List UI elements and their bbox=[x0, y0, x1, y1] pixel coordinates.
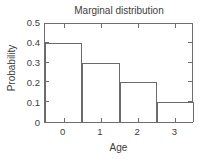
x-tick-label-0: 0 bbox=[48, 126, 78, 137]
bar-age-1 bbox=[82, 63, 119, 122]
y-tick-label-3: 0.3 bbox=[0, 58, 40, 68]
x-tick-label-2: 2 bbox=[122, 126, 152, 137]
y-tick-label-2: 0.2 bbox=[0, 78, 40, 88]
y-tick-mark-right-0.1 bbox=[188, 101, 192, 102]
y-axis-tick-labels: 0 0.1 0.2 0.3 0.4 0.5 bbox=[0, 23, 40, 123]
y-tick-mark-right-0.4 bbox=[188, 42, 192, 43]
y-tick-label-0: 0 bbox=[0, 118, 40, 128]
x-tick-mark-bottom-3 bbox=[175, 118, 176, 122]
x-tick-label-3: 3 bbox=[159, 126, 189, 137]
y-tick-mark-left-0.4 bbox=[45, 42, 49, 43]
bar-age-2 bbox=[120, 82, 157, 122]
y-tick-mark-right-0.3 bbox=[188, 62, 192, 63]
x-tick-mark-bottom-0 bbox=[64, 118, 65, 122]
y-tick-label-1: 0.1 bbox=[0, 98, 40, 108]
y-tick-mark-left-0.1 bbox=[45, 101, 49, 102]
x-tick-mark-top-3 bbox=[175, 24, 176, 28]
y-tick-mark-right-0.2 bbox=[188, 81, 192, 82]
x-tick-label-1: 1 bbox=[85, 126, 115, 137]
chart-title: Marginal distribution bbox=[44, 5, 194, 17]
x-tick-mark-top-2 bbox=[138, 24, 139, 28]
y-tick-mark-left-0.2 bbox=[45, 81, 49, 82]
x-tick-mark-top-0 bbox=[64, 24, 65, 28]
x-tick-mark-bottom-2 bbox=[138, 118, 139, 122]
chart-figure: Marginal distribution Probability 0 0.1 … bbox=[0, 0, 204, 166]
plot-inner-area bbox=[45, 24, 192, 122]
y-tick-label-5: 0.5 bbox=[0, 18, 40, 28]
x-tick-mark-top-1 bbox=[101, 24, 102, 28]
plot-area bbox=[44, 23, 193, 123]
x-tick-mark-bottom-1 bbox=[101, 118, 102, 122]
y-tick-label-4: 0.4 bbox=[0, 38, 40, 48]
y-tick-mark-left-0.3 bbox=[45, 62, 49, 63]
bar-age-0 bbox=[45, 43, 82, 122]
x-axis-tick-labels: 0 1 2 3 bbox=[44, 126, 193, 140]
x-axis-title: Age bbox=[44, 142, 193, 154]
